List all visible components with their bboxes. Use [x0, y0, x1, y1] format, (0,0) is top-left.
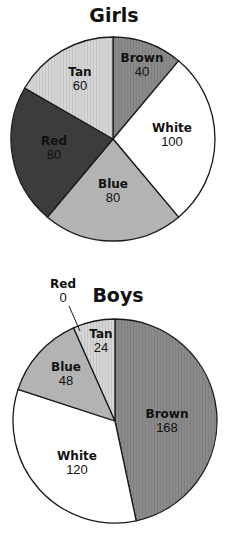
slice-label-white: White	[152, 121, 192, 135]
chart-title: Girls	[89, 4, 138, 26]
slice-label-tan: Tan	[89, 327, 112, 341]
slice-label-brown: Brown	[146, 407, 189, 421]
slice-label-red: Red	[41, 134, 67, 148]
slice-label-blue: Blue	[51, 360, 81, 374]
slice-value-blue: 80	[106, 190, 120, 205]
slice-label-blue: Blue	[98, 177, 128, 191]
pie-charts-figure: Girls Brown40White100Blue80Red80Tan60 Bo…	[0, 0, 229, 541]
slice-value-white: 100	[161, 134, 183, 149]
slice-label-red: Red	[50, 277, 76, 291]
slice-label-tan: Tan	[68, 65, 91, 79]
slice-value-tan: 60	[73, 78, 87, 93]
slice-value-brown: 40	[135, 64, 149, 79]
slice-value-tan: 24	[94, 340, 108, 355]
boys-pie-chart: Boys Brown168White120Blue48Tan24Red0	[13, 277, 217, 523]
slice-value-red: 80	[47, 147, 61, 162]
girls-pie-chart: Girls Brown40White100Blue80Red80Tan60	[11, 4, 215, 241]
slice-value-brown: 168	[156, 420, 178, 435]
pie-slices	[13, 319, 217, 523]
slice-label-white: White	[57, 449, 97, 463]
slice-value-red: 0	[59, 290, 66, 305]
chart-title: Boys	[92, 284, 143, 306]
slice-value-blue: 48	[59, 373, 73, 388]
slice-label-brown: Brown	[121, 51, 164, 65]
slice-value-white: 120	[66, 462, 88, 477]
